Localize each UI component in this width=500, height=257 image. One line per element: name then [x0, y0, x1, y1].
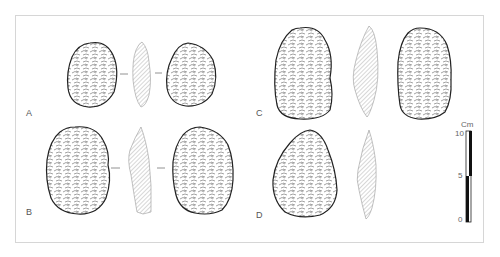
- label-c: C: [256, 108, 263, 118]
- artifact-c-section: [353, 26, 378, 117]
- scale-tick-0: 0: [458, 215, 462, 224]
- artifact-b-ventral: [173, 127, 233, 214]
- artifact-c-ventral: [398, 28, 451, 119]
- artifact-a-dorsal: [68, 43, 117, 108]
- artifact-c: [275, 26, 451, 119]
- artifact-drawings: [0, 0, 500, 257]
- label-d: D: [256, 210, 263, 220]
- scale-tick-10: 10: [455, 129, 464, 138]
- artifact-c-dorsal: [275, 28, 332, 120]
- artifact-d-dorsal: [273, 130, 337, 217]
- scale-tick-5: 5: [458, 171, 462, 180]
- artifact-a: [68, 42, 216, 107]
- artifact-b-section: [129, 127, 152, 214]
- artifact-d: [273, 130, 376, 219]
- label-a: A: [26, 108, 32, 118]
- artifact-b-dorsal: [47, 127, 110, 214]
- scale-unit: Cm: [461, 120, 473, 129]
- scale-bar: [466, 131, 472, 222]
- artifact-b: [47, 127, 234, 214]
- artifact-d-section: [357, 130, 376, 219]
- artifact-a-ventral: [167, 43, 216, 106]
- artifact-a-section: [133, 42, 151, 107]
- label-b: B: [26, 207, 32, 217]
